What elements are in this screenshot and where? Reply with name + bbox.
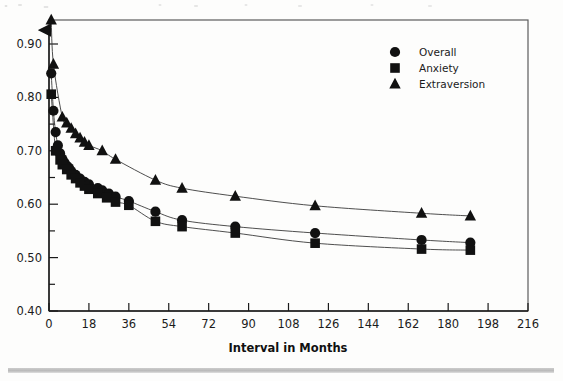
data-point-anxiety (84, 184, 94, 194)
fit-curves (51, 20, 470, 250)
reliability-chart-figure: 0.400.500.600.700.800.90 018365472901081… (0, 0, 563, 381)
data-point-overall (416, 235, 426, 245)
data-point-anxiety (111, 197, 121, 207)
x-tick-label: 198 (477, 317, 499, 331)
x-tick-label: 180 (437, 317, 459, 331)
x-tick-label: 18 (82, 317, 97, 331)
y-tick-label: 0.80 (16, 90, 42, 104)
x-tick-label: 54 (161, 317, 176, 331)
data-point-anxiety (124, 200, 134, 210)
y-tick-label: 0.50 (16, 251, 42, 265)
scanned-page-edge (8, 368, 554, 373)
fit-curve-anxiety (51, 94, 470, 250)
data-point-overall (48, 106, 58, 116)
y-tick-label: 0.60 (16, 197, 42, 211)
data-point-extraversion (150, 174, 161, 185)
data-point-anxiety (310, 238, 320, 248)
data-point-overall (46, 68, 56, 78)
x-tick-label: 0 (45, 317, 52, 331)
data-point-extraversion (110, 153, 121, 164)
data-point-extraversion (97, 145, 108, 156)
data-point-overall (150, 207, 160, 217)
y-tick-label: 0.70 (16, 144, 42, 158)
data-point-anxiety (93, 189, 103, 199)
legend-label-anxiety: Anxiety (419, 62, 459, 74)
legend-marker-triangle (389, 78, 400, 89)
data-point-anxiety (51, 146, 61, 156)
legend-marker-circle (390, 47, 400, 57)
x-tick-label: 90 (241, 317, 256, 331)
fit-curve-extraversion (51, 20, 470, 216)
x-tick-label: 216 (517, 317, 539, 331)
data-point-extraversion (416, 207, 427, 218)
data-point-markers (46, 14, 477, 255)
data-point-anxiety (46, 89, 56, 99)
x-tick-label: 108 (278, 317, 300, 331)
legend: OverallAnxietyExtraversion (389, 46, 485, 90)
data-point-overall (310, 228, 320, 238)
data-point-anxiety (102, 193, 112, 203)
x-tick-label: 36 (122, 317, 137, 331)
y-tick-label: 0.40 (16, 304, 42, 318)
data-point-overall (51, 127, 61, 137)
y-tick-label: 0.90 (16, 37, 42, 51)
x-tick-label: 144 (357, 317, 379, 331)
x-tick-label: 162 (397, 317, 419, 331)
x-tick-label: 72 (201, 317, 216, 331)
x-axis: 01836547290108126144162180198216 (45, 303, 539, 331)
data-point-anxiety (417, 244, 427, 254)
legend-label-overall: Overall (419, 46, 457, 58)
x-tick-label: 126 (317, 317, 339, 331)
data-point-extraversion (465, 210, 476, 221)
data-point-anxiety (230, 228, 240, 238)
legend-label-extraversion: Extraversion (419, 78, 485, 90)
data-point-anxiety (466, 245, 476, 255)
legend-marker-square (390, 63, 400, 73)
data-point-anxiety (177, 222, 187, 232)
data-point-anxiety (151, 216, 161, 226)
x-axis-title: Interval in Months (229, 341, 348, 355)
data-point-extraversion (46, 14, 57, 25)
data-point-extraversion (309, 200, 320, 211)
chart-canvas: 0.400.500.600.700.800.90 018365472901081… (0, 0, 563, 381)
